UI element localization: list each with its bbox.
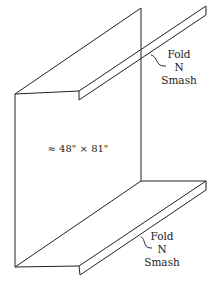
bottom-callout-line2: N [157, 243, 166, 255]
bottom-callout-line1: Fold [150, 230, 173, 242]
bottom-callout-line3: Smash [144, 256, 180, 268]
top-callout-line3: Smash [161, 74, 197, 86]
wall-panel [15, 8, 141, 267]
dimension-label: ≈ 48" × 81" [48, 143, 109, 154]
fold-n-smash-diagram: ≈ 48" × 81" Fold N Smash Fold N Smash [0, 0, 216, 288]
bottom-callout: Fold N Smash [141, 230, 180, 268]
callout-leader-icon [151, 55, 166, 66]
top-callout: Fold N Smash [151, 48, 197, 86]
top-callout-line1: Fold [167, 48, 190, 60]
top-callout-line2: N [174, 61, 183, 73]
